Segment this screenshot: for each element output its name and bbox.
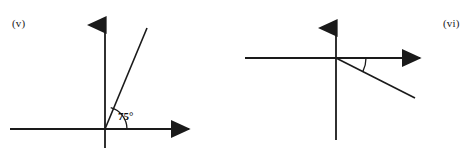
angle-diagrams-screenshot: (v) 75° (vi) 30° (0, 0, 462, 157)
figure-v: (v) 75° (0, 0, 231, 157)
angle-ray-vi (336, 58, 415, 98)
figure-v-label: (v) (12, 17, 25, 29)
angle-label-v: 75° (118, 110, 133, 122)
figure-vi-drawing (231, 0, 462, 157)
figure-v-drawing (0, 0, 231, 157)
figure-vi: (vi) 30° (231, 0, 462, 157)
angle-arc-vi (363, 58, 366, 72)
figure-vi-label: (vi) (443, 17, 460, 29)
